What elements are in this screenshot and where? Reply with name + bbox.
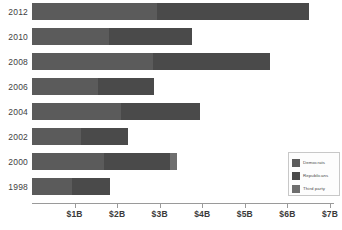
stacked-bar [32,53,270,70]
bar-segment [32,153,104,170]
bar-segment [98,78,154,95]
bar-segment [109,28,192,45]
bar-row: 2006 [0,78,342,95]
bar-row: 2004 [0,103,342,120]
y-axis-label: 2002 [0,132,28,142]
y-axis-label: 2000 [0,157,28,167]
stacked-bar [32,28,192,45]
y-axis-label: 2010 [0,32,28,42]
bar-segment [104,153,170,170]
stacked-bar-chart: $1B$2B$3B$4B$5B$6B$7B 201220102008200620… [0,0,342,230]
stacked-bar [32,103,200,120]
stacked-bar [32,178,110,195]
x-tick-label: $3B [152,209,168,219]
bar-segment [157,3,309,20]
bar-row: 2010 [0,28,342,45]
stacked-bar [32,153,177,170]
bar-segment [32,128,81,145]
legend-label-republicans: Republicans [303,173,328,178]
x-tick-label: $5B [237,209,253,219]
x-tick [330,203,331,208]
x-axis-line [32,203,334,204]
legend-swatch-third-party [292,185,300,193]
bar-segment [32,178,72,195]
legend-swatch-democrats [292,159,300,167]
y-axis-label: 1998 [0,182,28,192]
x-tick-label: $2B [109,209,125,219]
bar-segment [32,3,157,20]
bar-segment [170,153,176,170]
bar-row: 2012 [0,3,342,20]
x-tick-label: $6B [279,209,295,219]
bar-segment [153,53,270,70]
x-tick [117,203,118,208]
y-axis-label: 2012 [0,7,28,17]
x-tick [202,203,203,208]
chart-legend: Democrats Republicans Third party [288,152,340,196]
bar-row: 2008 [0,53,342,70]
stacked-bar [32,3,309,20]
x-tick-label: $4B [194,209,210,219]
bar-segment [121,103,200,120]
bar-segment [81,128,128,145]
x-tick [245,203,246,208]
legend-item-democrats: Democrats [292,157,336,168]
y-axis-label: 2006 [0,82,28,92]
x-tick-label: $1B [66,209,82,219]
bar-segment [72,178,109,195]
x-tick [287,203,288,208]
legend-item-third-party: Third party [292,183,336,194]
bar-segment [32,28,109,45]
bar-segment [32,103,121,120]
bar-segment [32,53,153,70]
x-tick [160,203,161,208]
bar-segment [32,78,98,95]
y-axis-label: 2004 [0,107,28,117]
legend-label-democrats: Democrats [303,160,325,165]
stacked-bar [32,78,154,95]
x-tick [75,203,76,208]
legend-label-third-party: Third party [303,186,325,191]
legend-item-republicans: Republicans [292,170,336,181]
x-tick-label: $7B [322,209,338,219]
legend-swatch-republicans [292,172,300,180]
bar-row: 2002 [0,128,342,145]
y-axis-label: 2008 [0,57,28,67]
stacked-bar [32,128,128,145]
